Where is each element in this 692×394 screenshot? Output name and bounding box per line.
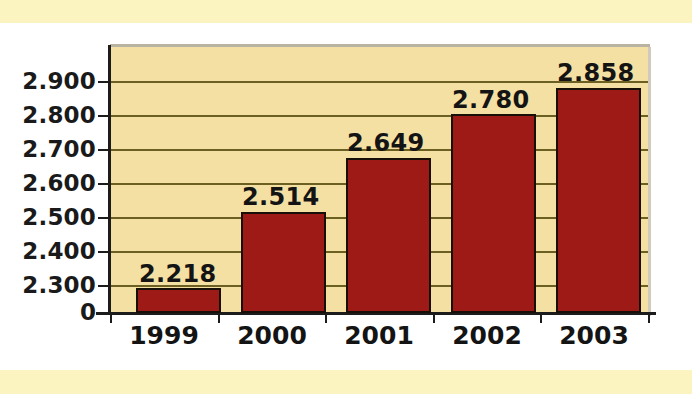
y-tick-2500 (98, 217, 110, 219)
y-axis-label-2400: 2.400 (22, 240, 96, 263)
bar-2000 (241, 212, 326, 313)
y-axis-label-2300: 2.300 (22, 274, 96, 297)
y-axis-label-2500: 2.500 (22, 206, 96, 229)
x-axis-label-2003: 2003 (540, 323, 648, 348)
x-axis-label-2002: 2002 (433, 323, 541, 348)
x-tick-4 (540, 313, 542, 323)
bar-chart: 2.900 2.800 2.700 2.600 2.500 2.400 2.30… (0, 0, 692, 394)
y-tick-2300 (98, 285, 110, 287)
y-axis-label-2800: 2.800 (22, 104, 96, 127)
page-root: 2.900 2.800 2.700 2.600 2.500 2.400 2.30… (0, 0, 692, 394)
bar-1999 (136, 288, 221, 313)
x-axis-label-2000: 2000 (218, 323, 326, 348)
bar-2002 (451, 114, 536, 313)
plot-shadow-right (648, 47, 651, 316)
y-axis-label-2900: 2.900 (22, 70, 96, 93)
y-tick-2600 (98, 183, 110, 185)
y-tick-2400 (98, 251, 110, 253)
value-label-2002: 2.780 (452, 88, 529, 112)
value-label-2003: 2.858 (557, 61, 634, 85)
value-label-2001: 2.649 (347, 131, 424, 155)
value-label-1999: 2.218 (139, 262, 216, 286)
y-axis-line (108, 45, 111, 315)
y-axis-label-2600: 2.600 (22, 172, 96, 195)
y-tick-2700 (98, 149, 110, 151)
x-tick-3 (433, 313, 435, 323)
x-tick-0 (110, 313, 112, 323)
bar-2001 (346, 158, 431, 313)
value-label-2000: 2.514 (242, 185, 319, 209)
x-axis-label-2001: 2001 (325, 323, 433, 348)
x-axis-label-1999: 1999 (110, 323, 218, 348)
bar-2003 (556, 88, 641, 313)
x-tick-2 (325, 313, 327, 323)
x-tick-1 (218, 313, 220, 323)
x-tick-5 (648, 313, 650, 323)
y-tick-2900 (98, 81, 110, 83)
y-axis-label-zero: 0 (80, 301, 96, 324)
y-axis-label-2700: 2.700 (22, 138, 96, 161)
y-tick-2800 (98, 115, 110, 117)
